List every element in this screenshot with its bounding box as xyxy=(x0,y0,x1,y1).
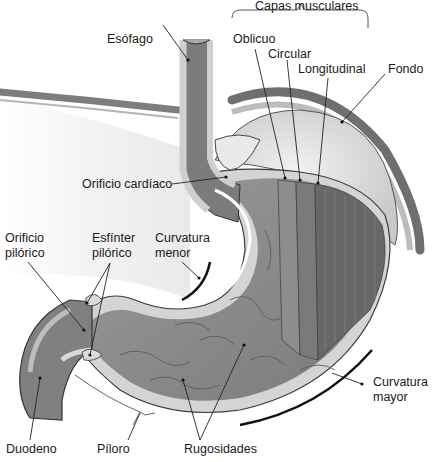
label-pylorus: Píloro xyxy=(97,442,130,457)
label-oblique: Oblicuo xyxy=(233,32,275,47)
background-tissue xyxy=(0,95,190,300)
label-esophagus: Esófago xyxy=(107,32,153,47)
circular-muscle xyxy=(296,182,318,360)
label-pyloric-sphincter: Esfínterpilórico xyxy=(92,231,135,261)
stomach-anatomy-diagram: Capas musculares Oblicuo Circular Longit… xyxy=(0,0,438,462)
label-circular: Circular xyxy=(268,47,311,62)
label-duodenum: Duodeno xyxy=(6,442,57,457)
label-fundus: Fondo xyxy=(388,62,423,77)
label-greater-curvature: Curvaturamayor xyxy=(373,375,428,405)
label-longitudinal: Longitudinal xyxy=(298,62,365,77)
label-rugae: Rugosidades xyxy=(184,442,257,457)
label-muscle-layers: Capas musculares xyxy=(255,0,359,14)
label-lesser-curvature: Curvaturamenor xyxy=(155,231,210,261)
label-pyloric-orifice: Orificiopilórico xyxy=(5,231,45,261)
label-cardiac-orifice: Orificio cardíaco xyxy=(82,177,172,192)
